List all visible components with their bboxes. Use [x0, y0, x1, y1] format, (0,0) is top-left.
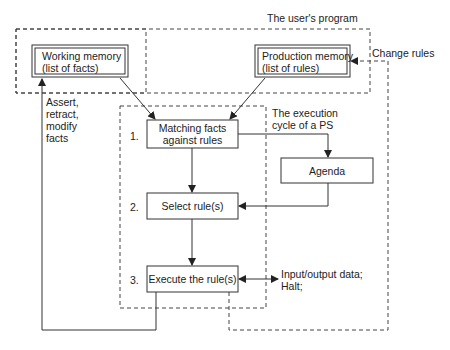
production-memory-label: Production memory (list of rules)	[262, 50, 353, 74]
production-memory-line1: Production memory	[262, 50, 353, 62]
io-line1: Input/output data;	[281, 268, 363, 280]
exec-cycle-line1: The execution	[272, 107, 338, 119]
assert-line2: retract,	[46, 108, 79, 120]
working-memory-line1: Working memory	[42, 50, 121, 62]
matching-label: Matching facts against rules	[147, 122, 238, 146]
io-label: Input/output data; Halt;	[281, 268, 363, 292]
change-rules-label: Change rules	[372, 47, 434, 59]
assert-line4: facts	[46, 132, 79, 144]
assert-label: Assert, retract, modify facts	[46, 96, 79, 144]
users-program-title: The user's program	[267, 12, 358, 24]
execution-cycle-label: The execution cycle of a PS	[272, 107, 338, 131]
assert-line1: Assert,	[46, 96, 79, 108]
step-1-number: 1.	[130, 130, 139, 142]
step-3-number: 3.	[130, 274, 139, 286]
step-2-number: 2.	[130, 201, 139, 213]
agenda-label: Agenda	[281, 165, 373, 177]
io-line2: Halt;	[281, 280, 363, 292]
select-label: Select rule(s)	[147, 200, 238, 212]
execute-label: Execute the rule(s)	[147, 273, 238, 285]
matching-line1: Matching facts	[147, 122, 238, 134]
working-memory-line2: (list of facts)	[42, 62, 121, 74]
working-memory-label: Working memory (list of facts)	[42, 50, 121, 74]
exec-cycle-line2: cycle of a PS	[272, 119, 338, 131]
matching-line2: against rules	[147, 134, 238, 146]
assert-line3: modify	[46, 120, 79, 132]
production-memory-line2: (list of rules)	[262, 62, 353, 74]
